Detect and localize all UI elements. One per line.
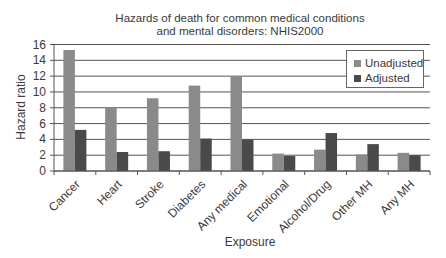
bar-unadjusted-diabetes [189, 86, 201, 171]
legend-label-adjusted: Adjusted [365, 72, 410, 84]
legend-swatch-adjusted [354, 75, 361, 82]
bar-unadjusted-other-mh [356, 154, 368, 171]
bar-unadjusted-cancer [63, 50, 74, 171]
bar-adjusted-any-medical [242, 139, 254, 171]
bar-adjusted-alcohol-drug [326, 133, 338, 171]
bar-unadjusted-emotional [272, 154, 284, 171]
y-tick-label: 16 [33, 38, 47, 52]
x-tick-label: Diabetes [165, 177, 208, 220]
bar-adjusted-other-mh [367, 144, 379, 171]
bar-adjusted-diabetes [200, 139, 212, 171]
bar-chart-plot: 0246810121416CancerHeartStrokeDiabetesAn… [0, 0, 446, 258]
x-tick-label: Cancer [46, 177, 83, 214]
y-tick-label: 0 [39, 164, 46, 178]
x-tick-label: Any MH [377, 177, 417, 217]
y-tick-label: 12 [33, 69, 47, 83]
y-tick-label: 14 [33, 53, 47, 67]
y-tick-label: 2 [39, 148, 46, 162]
legend-swatch-unadjusted [354, 60, 361, 67]
bar-adjusted-cancer [75, 130, 87, 171]
x-tick-label: Stroke [132, 177, 167, 212]
bar-adjusted-stroke [158, 151, 170, 171]
x-tick-label: Heart [94, 177, 125, 208]
legend-item-unadjusted: Unadjusted [354, 57, 423, 69]
bar-adjusted-heart [117, 152, 128, 171]
bar-unadjusted-heart [105, 108, 117, 171]
legend-item-adjusted: Adjusted [354, 72, 410, 84]
legend-label-unadjusted: Unadjusted [365, 57, 423, 69]
bar-unadjusted-any-medical [231, 76, 243, 171]
bar-adjusted-any-mh [409, 155, 421, 171]
y-tick-label: 8 [39, 101, 46, 115]
y-tick-label: 10 [33, 85, 47, 99]
bar-unadjusted-any-mh [398, 153, 410, 171]
y-tick-label: 6 [39, 117, 46, 131]
y-tick-label: 4 [39, 132, 46, 146]
bar-unadjusted-alcohol-drug [314, 150, 326, 171]
legend: Unadjusted Adjusted [346, 50, 424, 88]
x-tick-label: Other MH [329, 177, 376, 224]
bar-adjusted-emotional [284, 156, 296, 171]
bar-unadjusted-stroke [147, 98, 159, 171]
